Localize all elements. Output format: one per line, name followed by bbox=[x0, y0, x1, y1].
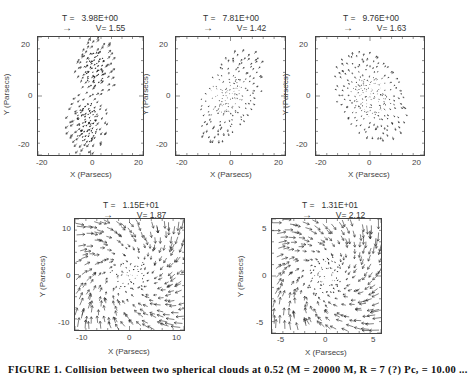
vector-field-plot bbox=[37, 36, 144, 156]
reference-arrow-icon: → bbox=[62, 23, 84, 33]
vector-arrows bbox=[272, 219, 381, 333]
x-axis-label: X (Parsecs) bbox=[348, 170, 390, 179]
time-value: 1.15E+01 bbox=[122, 200, 159, 210]
x-tick: 0 bbox=[127, 333, 131, 342]
x-tick: 20 bbox=[274, 158, 283, 167]
y-axis-label: Y (Parsecs) bbox=[2, 74, 11, 116]
figure-caption: FIGURE 1. Collision between two spherica… bbox=[8, 364, 438, 375]
reference-arrow-icon: → bbox=[343, 23, 365, 33]
x-tick: -5 bbox=[277, 335, 284, 344]
y-tick: -20 bbox=[296, 140, 308, 149]
time-value: 3.98E+00 bbox=[81, 13, 118, 23]
y-tick: 5 bbox=[262, 224, 266, 233]
time-value: 1.31E+01 bbox=[321, 200, 358, 210]
reference-velocity: V= 1.63 bbox=[377, 23, 407, 33]
y-tick: 20 bbox=[21, 40, 30, 49]
y-tick: -20 bbox=[156, 140, 168, 149]
vector-field-plot bbox=[74, 218, 185, 331]
x-tick: 0 bbox=[90, 158, 94, 167]
x-tick: 0 bbox=[229, 158, 233, 167]
x-tick: -20 bbox=[315, 158, 327, 167]
vector-arrows bbox=[176, 37, 285, 155]
x-tick: 0 bbox=[367, 158, 371, 167]
y-tick: 0 bbox=[28, 91, 32, 100]
reference-arrow-icon: → bbox=[203, 23, 225, 33]
x-tick: 5 bbox=[371, 335, 375, 344]
x-axis-label: X (Parsecs) bbox=[210, 170, 252, 179]
panel-4-title: T = 1.15E+01 → V= 1.87 bbox=[103, 200, 166, 220]
panel-5-title: T = 1.31E+01 → V= 2.12 bbox=[302, 200, 365, 220]
y-tick: 0 bbox=[66, 271, 70, 280]
panel-2-title: T = 7.81E+00 → V= 1.42 bbox=[203, 13, 266, 33]
y-tick: -10 bbox=[58, 318, 70, 327]
vector-field-plot bbox=[175, 36, 286, 156]
vector-arrows bbox=[75, 219, 184, 330]
x-axis-label: X (Parsecs) bbox=[108, 347, 150, 356]
x-axis-label: X (Parsecs) bbox=[305, 348, 347, 357]
x-tick: 20 bbox=[134, 158, 143, 167]
y-tick: 20 bbox=[159, 40, 168, 49]
reference-velocity: V= 1.42 bbox=[237, 23, 267, 33]
y-axis-label: Y (Parsecs) bbox=[141, 74, 150, 116]
x-tick: 0 bbox=[323, 335, 327, 344]
y-axis-label: Y (Parsecs) bbox=[281, 74, 290, 116]
reference-velocity: V= 1.55 bbox=[96, 23, 126, 33]
y-axis-label: Y (Parsecs) bbox=[38, 256, 47, 298]
y-tick: -5 bbox=[256, 318, 263, 327]
y-tick: 0 bbox=[166, 91, 170, 100]
x-tick: -20 bbox=[176, 158, 188, 167]
vector-arrows bbox=[316, 37, 424, 155]
y-tick: 0 bbox=[262, 271, 266, 280]
y-tick: -20 bbox=[18, 140, 30, 149]
vector-field-plot bbox=[271, 218, 382, 334]
x-tick: -10 bbox=[76, 333, 88, 342]
y-tick: 10 bbox=[62, 224, 71, 233]
panel-3-title: T = 9.76E+00 → V= 1.63 bbox=[343, 13, 406, 33]
y-axis-label: Y (Parsecs) bbox=[236, 256, 245, 298]
vector-field-plot bbox=[315, 36, 425, 156]
y-tick: 20 bbox=[299, 40, 308, 49]
x-tick: -20 bbox=[36, 158, 48, 167]
vector-arrows bbox=[38, 37, 143, 155]
panel-1-title: T = 3.98E+00 → V= 1.55 bbox=[62, 13, 125, 33]
x-tick: 20 bbox=[412, 158, 421, 167]
time-value: 7.81E+00 bbox=[222, 13, 259, 23]
x-axis-label: X (Parsecs) bbox=[70, 170, 112, 179]
x-tick: 10 bbox=[172, 333, 181, 342]
time-value: 9.76E+00 bbox=[362, 13, 399, 23]
y-tick: 0 bbox=[306, 91, 310, 100]
